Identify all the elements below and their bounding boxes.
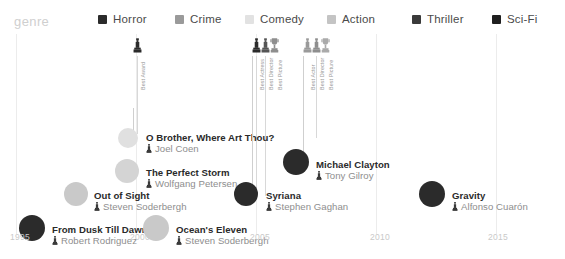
film-director-name: Stephen Gaghan: [275, 201, 348, 212]
legend-label: Comedy: [260, 13, 304, 25]
award-label: Best Director: [268, 58, 274, 90]
film-director: Stephen Gaghan: [266, 201, 348, 212]
oscar-statuette-icon: [146, 144, 152, 153]
legend-label: Horror: [113, 13, 147, 25]
legend-swatch-5: [492, 15, 501, 24]
legend-swatch-3: [327, 15, 336, 24]
film-dot[interactable]: [115, 159, 139, 183]
legend-swatch-4: [412, 15, 421, 24]
film-director-name: Alfonso Cuarón: [461, 201, 528, 212]
timeline-chart: genre HorrorCrimeComedyActionThrillerSci…: [0, 0, 565, 259]
gridline-0: [16, 34, 17, 234]
film-text-block: The Perfect StormWolfgang Petersen: [146, 167, 237, 189]
oscar-statuette-icon: [146, 179, 152, 188]
award-stem: [256, 56, 257, 196]
legend-item-crime[interactable]: Crime: [175, 13, 222, 25]
film-dot[interactable]: [118, 128, 138, 148]
oscar-statuette-icon: [312, 38, 321, 53]
axis-tick-2010: 2010: [370, 232, 390, 242]
legend-item-comedy[interactable]: Comedy: [245, 13, 304, 25]
oscar-statuette-icon: [303, 38, 312, 53]
legend-item-thriller[interactable]: Thriller: [412, 13, 464, 25]
oscar-statuette-icon: [312, 38, 321, 53]
film-director: Alfonso Cuarón: [452, 201, 528, 212]
award-stem: [265, 56, 266, 196]
award-label: Best Picture: [277, 60, 283, 90]
film-text-block: SyrianaStephen Gaghan: [266, 190, 348, 212]
oscar-statuette-icon: [133, 38, 142, 53]
film-dot[interactable]: [234, 182, 258, 206]
oscar-statuette-icon: [316, 171, 322, 180]
film-director: Wolfgang Petersen: [146, 178, 237, 189]
film-text-block: Michael ClaytonTony Gilroy: [316, 159, 390, 181]
legend-label: Action: [342, 13, 375, 25]
film-title: Syriana: [266, 190, 348, 201]
award-label: Best Director: [319, 58, 325, 90]
award-stem: [316, 56, 317, 138]
award-label: Best Award: [140, 62, 146, 90]
film-text-block: O Brother, Where Art Thou?Joel Coen: [146, 132, 274, 154]
axis-tick-2000: 2000: [130, 232, 150, 242]
legend-label: Thriller: [427, 13, 464, 25]
film-stem: [303, 56, 304, 162]
oscar-statuette-icon: [94, 202, 100, 211]
film-title: The Perfect Storm: [146, 167, 237, 178]
oscar-trophy-icon: [270, 38, 279, 53]
film-director-name: Wolfgang Petersen: [155, 178, 237, 189]
axis-tick-2015: 2015: [488, 232, 508, 242]
film-dot[interactable]: [419, 181, 445, 207]
plot-area: Best AwardBest ActressBest DirectorBest …: [0, 34, 565, 234]
oscar-trophy-icon: [321, 38, 330, 53]
film-title: Gravity: [452, 190, 528, 201]
oscar-trophy-icon: [270, 38, 279, 53]
film-title: Out of Sight: [94, 190, 187, 201]
legend-swatch-2: [245, 15, 254, 24]
film-title: Michael Clayton: [316, 159, 390, 170]
film-director: Tony Gilroy: [316, 170, 390, 181]
axis-tick-1995: 1995: [10, 232, 30, 242]
oscar-statuette-icon: [303, 38, 312, 53]
film-stem: [252, 56, 253, 194]
film-director: Steven Soderbergh: [94, 201, 187, 212]
film-dot[interactable]: [283, 149, 309, 175]
award-label: Best Picture: [328, 60, 334, 90]
film-text-block: Out of SightSteven Soderbergh: [94, 190, 187, 212]
legend-item-horror[interactable]: Horror: [98, 13, 147, 25]
oscar-statuette-icon: [261, 38, 270, 53]
axis-tick-2005: 2005: [250, 232, 270, 242]
award-stem: [137, 56, 138, 134]
oscar-statuette-icon: [252, 38, 261, 53]
legend-item-sci-fi[interactable]: Sci-Fi: [492, 13, 538, 25]
film-title: O Brother, Where Art Thou?: [146, 132, 274, 143]
legend-label: Sci-Fi: [507, 13, 538, 25]
oscar-statuette-icon: [261, 38, 270, 53]
oscar-trophy-icon: [321, 38, 330, 53]
film-director-name: Joel Coen: [155, 143, 199, 154]
x-axis: 19952000200520102015: [0, 232, 565, 252]
legend-label: Crime: [190, 13, 222, 25]
film-director-name: Steven Soderbergh: [103, 201, 187, 212]
oscar-statuette-icon: [133, 38, 142, 53]
legend-swatch-1: [175, 15, 184, 24]
oscar-statuette-icon: [266, 202, 272, 211]
film-director-name: Tony Gilroy: [325, 170, 374, 181]
film-director: Joel Coen: [146, 143, 274, 154]
oscar-statuette-icon: [452, 202, 458, 211]
film-text-block: GravityAlfonso Cuarón: [452, 190, 528, 212]
gridline-3: [376, 34, 377, 234]
genre-legend: genre HorrorCrimeComedyActionThrillerSci…: [0, 13, 565, 31]
legend-swatch-0: [98, 15, 107, 24]
film-dot[interactable]: [64, 182, 88, 206]
legend-title: genre: [14, 14, 49, 29]
oscar-statuette-icon: [252, 38, 261, 53]
legend-item-action[interactable]: Action: [327, 13, 375, 25]
